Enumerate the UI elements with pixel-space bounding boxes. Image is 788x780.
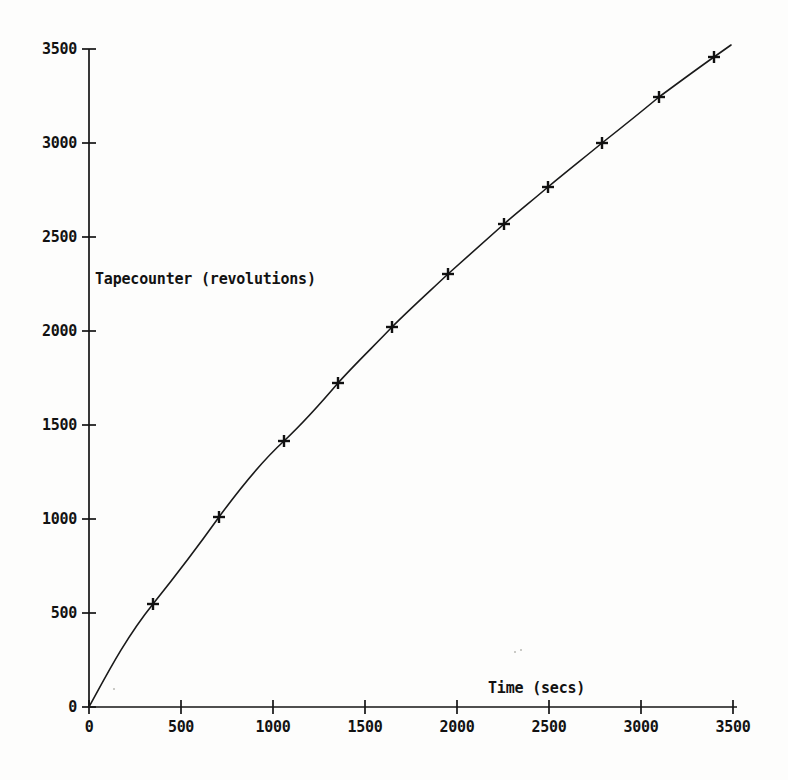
scan-speck bbox=[520, 649, 522, 651]
scan-speck bbox=[514, 651, 516, 653]
chart-figure: 0 500 1000 1500 2000 2500 3000 3500 0 50… bbox=[0, 0, 788, 780]
plot-canvas bbox=[0, 0, 788, 780]
y-axis-title: Tapecounter (revolutions) bbox=[95, 270, 316, 288]
y-tick-label-1000: 1000 bbox=[22, 510, 77, 528]
data-point-marker bbox=[708, 51, 720, 63]
data-point-marker bbox=[213, 511, 225, 523]
x-tick-label-500: 500 bbox=[168, 718, 194, 736]
y-tick-label-500: 500 bbox=[22, 604, 77, 622]
x-tick-label-3000: 3000 bbox=[624, 718, 659, 736]
data-point-markers bbox=[147, 51, 720, 610]
y-tick-label-3500: 3500 bbox=[22, 40, 77, 58]
scan-speck bbox=[113, 688, 115, 690]
x-tick-label-2500: 2500 bbox=[532, 718, 567, 736]
y-tick-label-0: 0 bbox=[22, 698, 77, 716]
x-tick-label-3500: 3500 bbox=[716, 718, 751, 736]
y-tick-label-1500: 1500 bbox=[22, 416, 77, 434]
y-tick-label-2500: 2500 bbox=[22, 228, 77, 246]
x-tick-label-1000: 1000 bbox=[256, 718, 291, 736]
data-line-series bbox=[89, 45, 731, 707]
x-tick-label-0: 0 bbox=[85, 718, 94, 736]
x-tick-label-1500: 1500 bbox=[348, 718, 383, 736]
axes-group bbox=[82, 49, 737, 714]
y-tick-label-2000: 2000 bbox=[22, 322, 77, 340]
x-tick-label-2000: 2000 bbox=[440, 718, 475, 736]
y-tick-label-3000: 3000 bbox=[22, 134, 77, 152]
x-axis-title: Time (secs) bbox=[488, 679, 585, 697]
